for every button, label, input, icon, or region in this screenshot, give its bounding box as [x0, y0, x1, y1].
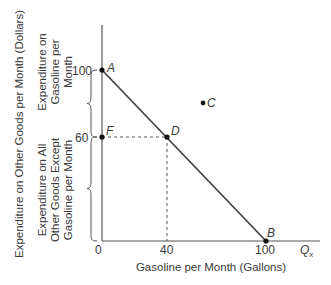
brace-upper-line-2: Gasoline per [49, 39, 61, 104]
brace-upper [87, 70, 97, 137]
point-a-marker [99, 67, 104, 72]
brace-lower-line-2: Other Goods Except [49, 137, 61, 242]
brace-lower-line-1: Expenditure on All [36, 144, 48, 237]
brace-lower-line-3: Gasoline per Month [62, 140, 74, 240]
brace-upper-line-3: Month [62, 56, 74, 88]
qx-subscript: x [308, 250, 314, 259]
point-c-label: C [207, 96, 216, 110]
y-tick-100: 100 [72, 64, 92, 78]
y-tick-60: 60 [75, 131, 89, 145]
point-c-marker [201, 101, 206, 106]
x-axis-label: Gasoline per Month (Gallons) [136, 261, 286, 273]
qx-main: Q [300, 243, 309, 257]
brace-upper-label: Expenditure on Gasoline per Month [36, 33, 74, 110]
x-tick-100: 100 [255, 243, 275, 257]
x-tick-40: 40 [160, 243, 174, 257]
x-axis-end-label: Qx [300, 243, 314, 259]
brace-lower-label: Expenditure on All Other Goods Except Ga… [36, 137, 74, 242]
y-axis-label: Expenditure on Other Goods per Month (Do… [13, 10, 25, 258]
point-b-label: B [267, 226, 275, 240]
point-f-marker [99, 134, 104, 139]
brace-upper-line-1: Expenditure on [36, 33, 48, 110]
point-a-label: A [106, 61, 115, 75]
point-d-marker [164, 134, 169, 139]
brace-lower [87, 137, 97, 241]
point-d-label: D [171, 124, 180, 138]
point-f-label: F [106, 124, 114, 138]
budget-line-chart: A F D B C 100 60 0 40 100 Qx Gasoline pe… [0, 0, 331, 285]
budget-line [102, 70, 266, 241]
x-tick-0: 0 [95, 243, 102, 257]
